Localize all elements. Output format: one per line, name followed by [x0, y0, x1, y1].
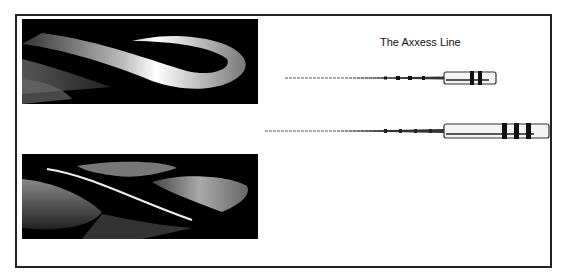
axxess-file-2-image — [264, 119, 554, 143]
file-tip-closeup-bottom-image — [22, 154, 258, 239]
file-tip-closeup-top-image — [22, 19, 258, 104]
axxess-file-1-image — [284, 68, 500, 88]
figure-caption: The Axxess Line — [380, 36, 500, 48]
